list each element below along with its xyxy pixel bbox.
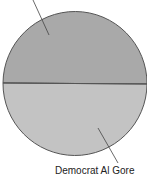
- pie-slice-bottom: [3, 83, 147, 156]
- pie-chart: Democrat Al Gore: [0, 0, 147, 174]
- pie-slice-top: [3, 11, 147, 84]
- label-democrat-al-gore: Democrat Al Gore: [55, 165, 135, 174]
